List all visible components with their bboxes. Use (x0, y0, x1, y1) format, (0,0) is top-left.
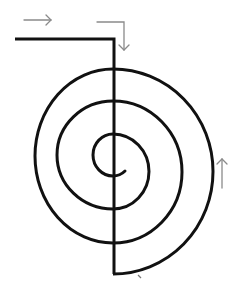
tick-mark (138, 275, 141, 278)
spiral-path (35, 69, 213, 274)
arrow-right-icon (24, 15, 51, 25)
entry-line (15, 39, 114, 274)
spiral-diagram (0, 0, 237, 294)
arrow-up-icon (217, 159, 227, 188)
